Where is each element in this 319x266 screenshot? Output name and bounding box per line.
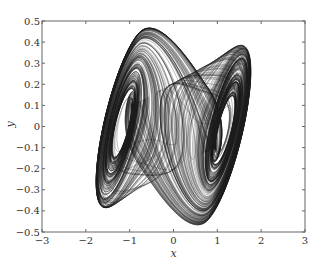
x-axis-label: x [170, 247, 177, 260]
y-tick-label: 0.4 [24, 37, 40, 48]
y-tick-label: −0.4 [16, 205, 40, 216]
y-tick-label: −0.1 [16, 142, 40, 153]
trajectory-path [96, 28, 251, 225]
x-tick-label: 1 [214, 235, 220, 246]
x-tick-label: −1 [122, 235, 137, 246]
x-tick-label: 0 [170, 235, 176, 246]
y-tick-label: −0.2 [16, 163, 40, 174]
y-tick-label: 0.2 [24, 79, 40, 90]
y-tick-label: 0.1 [24, 100, 40, 111]
y-tick-label: 0.3 [24, 58, 40, 69]
y-tick-label: −0.3 [16, 184, 40, 195]
y-tick-label: 0.5 [24, 16, 40, 27]
y-tick-label: 0 [34, 121, 40, 132]
x-tick-label: 3 [302, 235, 308, 246]
attractor-trajectory [96, 28, 251, 225]
y-axis-label: y [4, 121, 17, 129]
x-tick-label: 2 [258, 235, 264, 246]
attractor-chart: −3−2−10123 −0.5−0.4−0.3−0.2−0.100.10.20.… [0, 0, 319, 266]
y-tick-label: −0.5 [16, 227, 40, 238]
x-tick-label: −2 [78, 235, 93, 246]
